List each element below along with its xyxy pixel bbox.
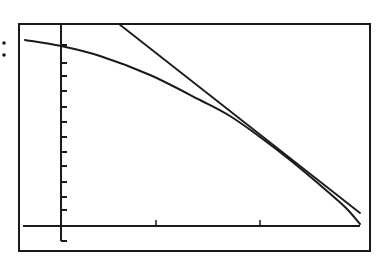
- tangent-line: [119, 24, 360, 213]
- function-curve: [25, 40, 360, 224]
- graph-frame: [19, 24, 370, 251]
- colon-marker: [2, 41, 6, 57]
- calculator-graph: [0, 0, 384, 268]
